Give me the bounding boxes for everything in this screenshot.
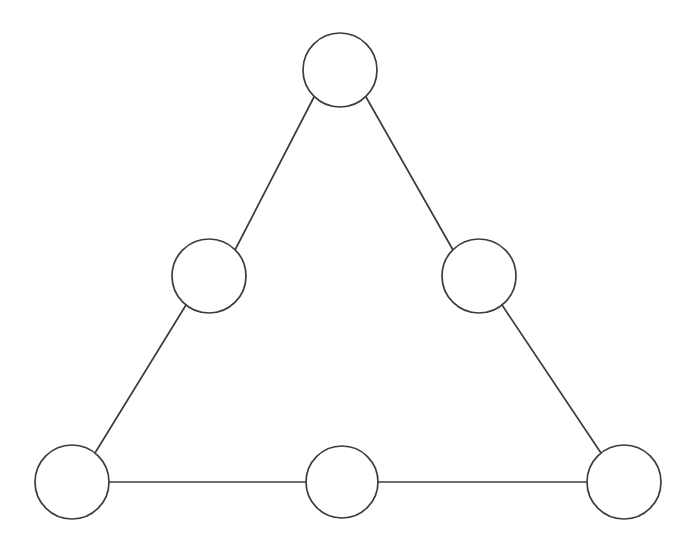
node-bottom-right-circle[interactable] (587, 445, 661, 519)
edge-top-to-mid-left (235, 97, 314, 250)
edge-mid-right-to-bottom-right (502, 305, 601, 453)
node-bottom-left[interactable] (35, 445, 109, 519)
node-bottom-left-circle[interactable] (35, 445, 109, 519)
node-layer (35, 33, 661, 519)
node-mid-right[interactable] (442, 239, 516, 313)
node-mid-left[interactable] (172, 239, 246, 313)
node-bottom-right[interactable] (587, 445, 661, 519)
node-top-circle[interactable] (303, 33, 377, 107)
node-mid-left-circle[interactable] (172, 239, 246, 313)
diagram-canvas (0, 0, 694, 552)
node-top[interactable] (303, 33, 377, 107)
node-bottom-center-circle[interactable] (306, 446, 378, 518)
edge-top-to-mid-right (366, 97, 453, 250)
node-bottom-center[interactable] (306, 446, 378, 518)
edge-mid-left-to-bottom-left (95, 305, 186, 453)
triangle-graph (0, 0, 694, 552)
node-mid-right-circle[interactable] (442, 239, 516, 313)
edge-layer (95, 97, 601, 482)
